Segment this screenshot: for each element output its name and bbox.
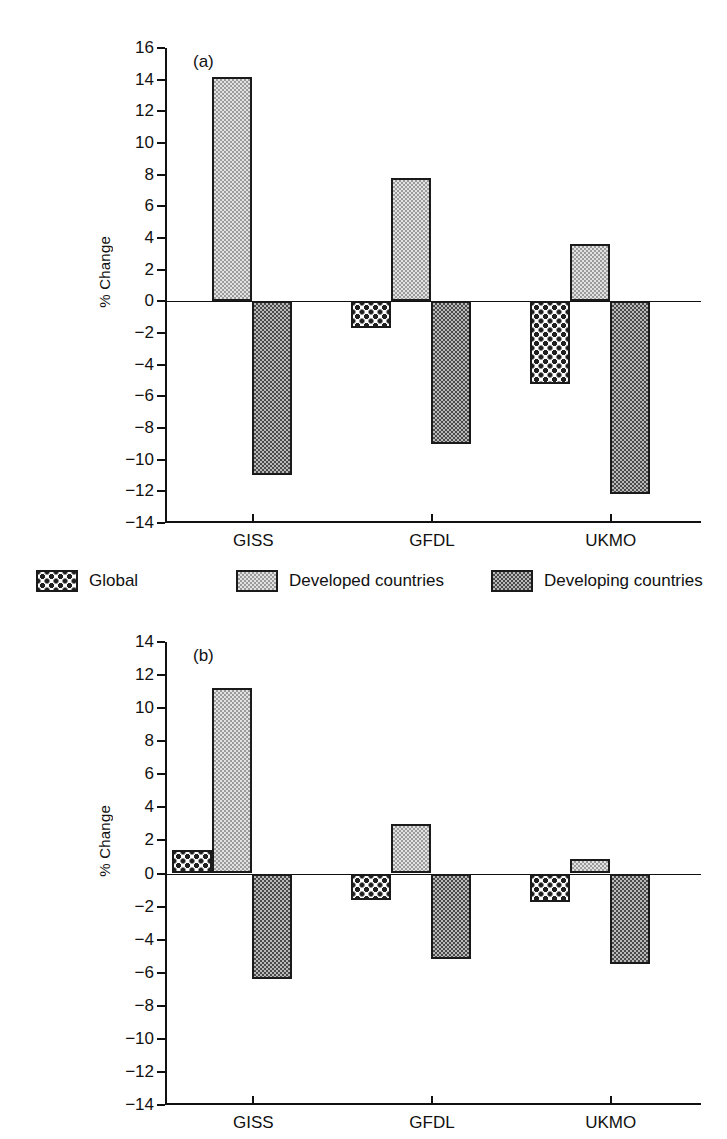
y-tick-a [157,269,165,271]
y-tick-label-b: 0 [145,864,154,884]
y-tick-label-b: 2 [145,830,154,850]
legend-item: Developing countries [491,570,703,592]
y-tick-b [157,1038,165,1040]
y-tick-a [157,427,165,429]
x-tick-label-a: GFDL [409,531,454,551]
bar-b [431,874,471,960]
y-tick-b [157,1005,165,1007]
bar-a [431,301,471,444]
y-tick-b [157,939,165,941]
bar-b [530,874,570,902]
y-tick-b [157,906,165,908]
y-tick-label-a: −6 [135,386,154,406]
bar-b [391,824,431,874]
bar-b [610,874,650,965]
y-tick-b [157,707,165,709]
x-tick-label-b: GFDL [409,1113,454,1133]
panel-label-a: (a) [193,52,214,72]
legend-swatch [491,570,533,592]
legend-item: Developed countries [236,570,444,592]
legend-item: Global [36,570,138,592]
legend-label: Developing countries [544,571,703,591]
x-tick-b [610,1096,612,1105]
y-tick-label-a: −14 [125,513,154,533]
x-tick-label-a: UKMO [585,531,636,551]
y-axis-label-a: % Change [96,236,113,308]
y-tick-b [157,839,165,841]
y-tick-b [157,972,165,974]
y-tick-label-b: −14 [125,1095,154,1115]
legend-swatch [236,570,278,592]
y-tick-label-a: 10 [135,133,154,153]
y-tick-label-b: 10 [135,698,154,718]
y-tick-label-a: −4 [135,355,154,375]
plot-area-b: (b) 14121086420−2−4−6−8−10−12−14GISSGFDL… [165,642,701,1105]
bar-b [252,874,292,980]
y-tick-label-b: 8 [145,731,154,751]
bar-b [351,874,391,900]
y-tick-label-a: −8 [135,418,154,438]
y-tick-b [157,1071,165,1073]
y-tick-a [157,174,165,176]
y-tick-b [157,674,165,676]
y-tick-label-a: −2 [135,323,154,343]
y-tick-label-a: 8 [145,165,154,185]
y-tick-b [157,773,165,775]
y-axis-label-b: % Change [96,805,113,877]
y-tick-label-a: −10 [125,450,154,470]
y-tick-label-a: 12 [135,101,154,121]
y-tick-a [157,110,165,112]
y-tick-label-a: 14 [135,70,154,90]
y-tick-label-a: 6 [145,196,154,216]
y-tick-a [157,142,165,144]
x-tick-a [252,514,254,523]
y-tick-a [157,205,165,207]
legend-swatch [36,570,78,592]
y-tick-b [157,1104,165,1106]
y-tick-label-b: −10 [125,1029,154,1049]
y-tick-label-b: −6 [135,963,154,983]
plot-area-a: (a) 1614121086420−2−4−6−8−10−12−14GISSGF… [165,48,701,523]
y-tick-b [157,873,165,875]
y-tick-label-b: 6 [145,764,154,784]
chart-panel-a: % Change (a) 1614121086420−2−4−6−8−10−12… [0,0,727,552]
y-tick-a [157,395,165,397]
y-tick-a [157,459,165,461]
legend-label: Global [89,571,138,591]
y-tick-a [157,522,165,524]
x-axis-line-b [165,1103,701,1105]
bar-a [570,244,610,301]
legend: GlobalDeveloped countriesDeveloping coun… [36,566,696,596]
bar-a [391,178,431,302]
y-tick-b [157,806,165,808]
y-tick-label-b: 14 [135,632,154,652]
y-tick-label-b: −8 [135,996,154,1016]
legend-label: Developed countries [289,571,444,591]
bar-b [570,859,610,874]
panel-label-b: (b) [193,646,214,666]
x-tick-label-b: UKMO [585,1113,636,1133]
y-tick-label-a: 0 [145,291,154,311]
y-tick-label-b: −2 [135,897,154,917]
x-tick-a [610,514,612,523]
bar-b [172,850,212,873]
x-tick-label-b: GISS [233,1113,274,1133]
y-axis-line-a [165,48,167,523]
y-tick-label-a: −12 [125,481,154,501]
x-tick-b [252,1096,254,1105]
y-tick-a [157,79,165,81]
y-tick-a [157,47,165,49]
x-axis-line-a [165,521,701,523]
y-tick-b [157,641,165,643]
bar-a [530,301,570,383]
y-tick-label-a: 2 [145,260,154,280]
bar-b [212,688,252,873]
x-tick-a [431,514,433,523]
y-tick-a [157,300,165,302]
x-tick-b [431,1096,433,1105]
y-tick-label-a: 4 [145,228,154,248]
y-tick-label-b: −4 [135,930,154,950]
y-tick-label-b: 4 [145,797,154,817]
bar-a [252,301,292,475]
bar-a [610,301,650,494]
